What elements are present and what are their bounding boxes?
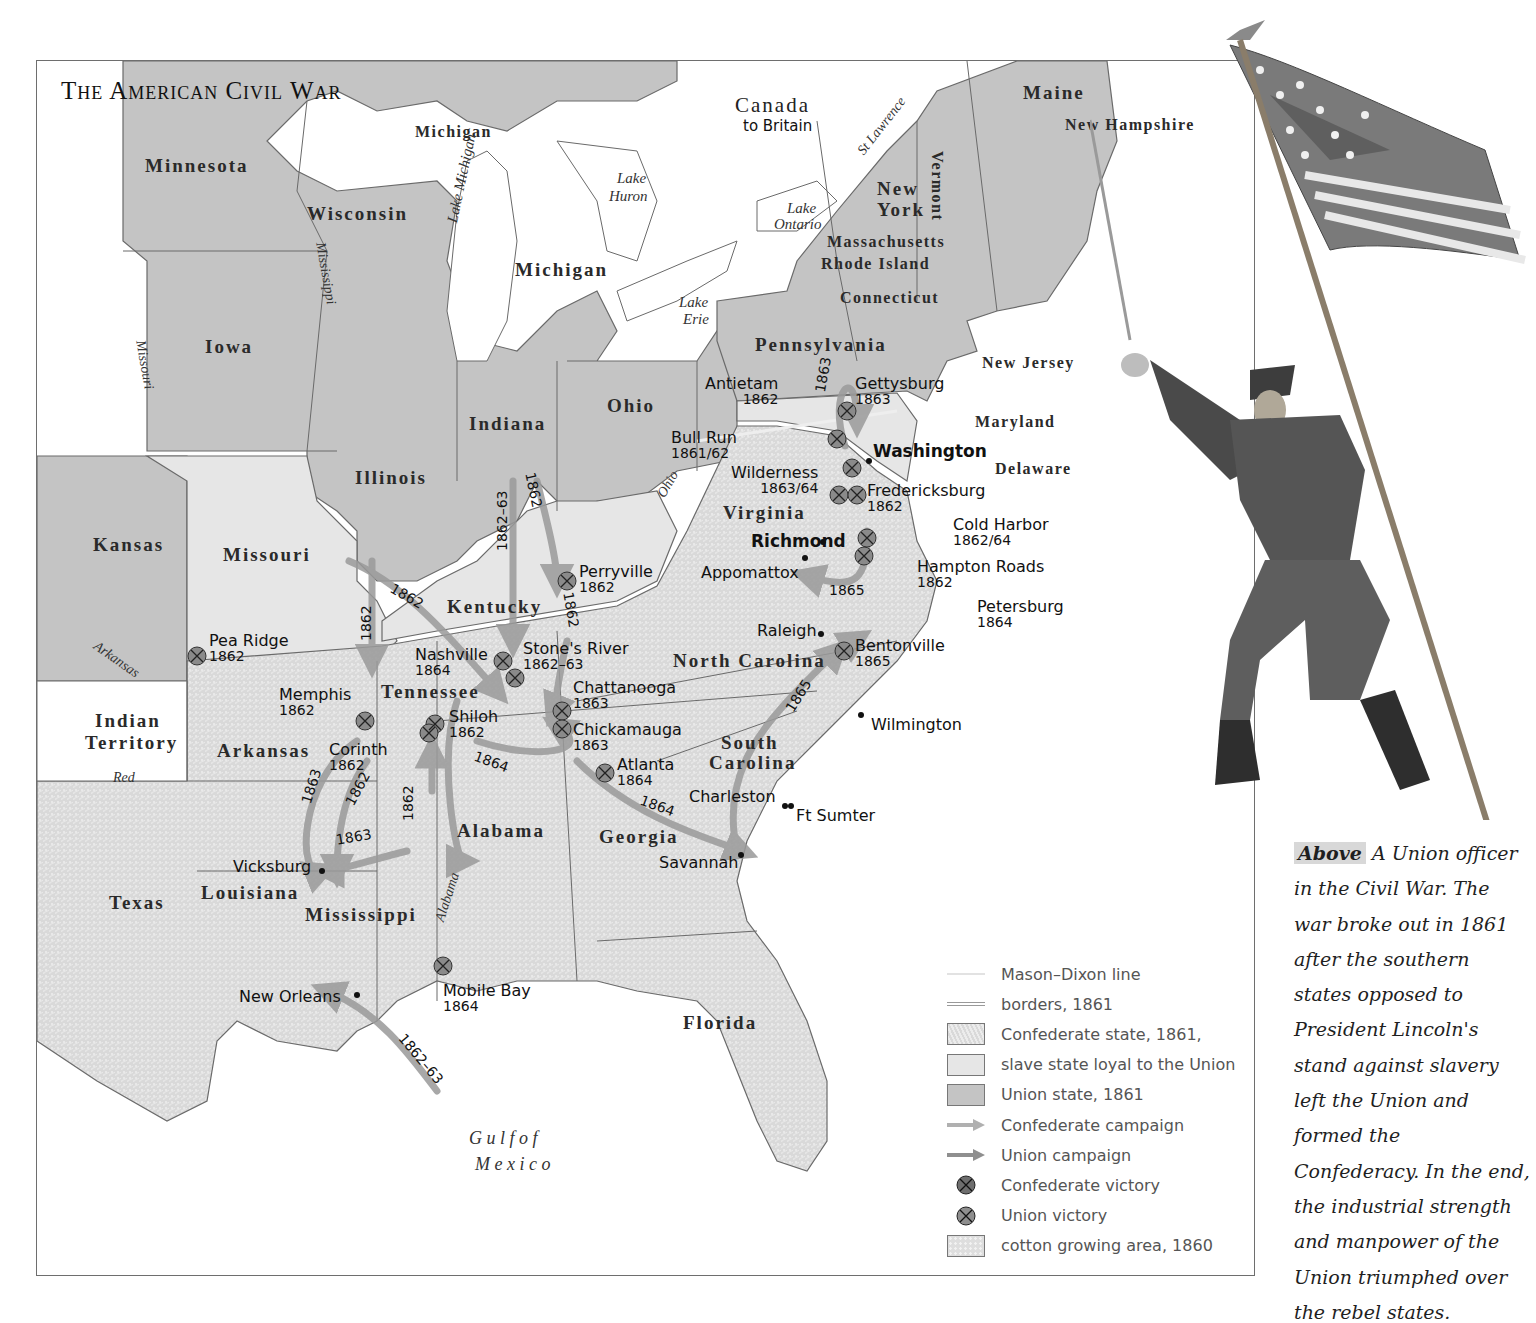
label-iowa: Iowa [205,337,253,356]
legend-item-mason-dixon: Mason–Dixon line [947,959,1237,989]
label-maine: Maine [1023,83,1085,102]
label-city-charleston: Charleston [689,789,776,805]
campaign-year-vicksburg-c: 1862 [401,785,415,821]
label-michigan-upper: Michigan [415,124,492,140]
union-state-swatch [947,1084,985,1106]
legend-item-borders: borders, 1861 [947,989,1237,1019]
label-city-new-orleans: New Orleans [239,989,341,1005]
label-missouri: Missouri [223,545,311,564]
label-lake-erie-2: Erie [683,312,709,327]
label-lake-erie-1: Lake [679,295,708,310]
label-wisconsin: Wisconsin [307,204,408,223]
label-kentucky: Kentucky [447,597,542,616]
label-lake-ontario-2: Ontario [774,217,822,232]
label-city-appomattox: Appomattox [701,565,799,581]
label-louisiana: Louisiana [201,883,299,902]
label-connecticut: Connecticut [840,290,939,306]
union-victory-marker-icon [947,1205,985,1227]
label-illinois: Illinois [355,468,427,487]
label-city-ft-sumter: Ft Sumter [796,808,875,824]
battle-perryville: Perryville1862 [579,564,653,594]
label-rhode-island: Rhode Island [821,256,930,272]
legend-item-confederate-state: Confederate state, 1861, [947,1019,1237,1049]
label-canada-sub: to Britain [743,119,812,134]
campaign-year-missouri-b: 1862 [359,605,373,641]
battle-atlanta: Atlanta1864 [617,757,674,787]
label-virginia: Virginia [723,503,806,522]
label-alabama: Alabama [457,821,545,840]
confederate-victory-marker-icon [947,1174,985,1196]
label-indian-territory-2: Territory [85,733,178,752]
label-minnesota: Minnesota [145,156,249,175]
battle-gettysburg: Gettysburg1863 [855,376,944,406]
confederate-state-swatch [947,1023,985,1045]
label-south-carolina-2: Carolina [709,753,796,772]
legend-item-confederate-victory: Confederate victory [947,1170,1237,1200]
label-new-jersey: New Jersey [982,355,1075,371]
label-georgia: Georgia [599,827,678,846]
label-indian-territory-1: Indian [95,711,161,730]
borders-line-swatch [947,993,985,1015]
label-river-red: Red [113,771,135,785]
battle-hampton-roads: Hampton Roads1862 [917,559,1044,589]
legend-item-union-state: Union state, 1861 [947,1080,1237,1110]
label-gulf-1: G u l f o f [469,1129,538,1147]
map-title: The American Civil War [61,77,342,105]
label-maryland: Maryland [975,414,1055,430]
mason-dixon-line-swatch [947,963,985,985]
slave-state-swatch [947,1054,985,1076]
battle-stones-river: Stone's River1862–63 [523,641,628,671]
map-frame: The American Civil War Canada to Britain… [36,60,1255,1276]
battle-antietam: Antietam1862 [705,376,778,406]
label-indiana: Indiana [469,414,546,433]
caption: Above A Union officer in the Civil War. … [1294,836,1530,1323]
label-tennessee: Tennessee [381,682,480,701]
battle-pea-ridge: Pea Ridge1862 [209,633,289,663]
label-massachusetts: Massachusetts [827,234,945,250]
legend-item-slave-state: slave state loyal to the Union [947,1050,1237,1080]
label-north-carolina: North Carolina [673,651,826,670]
confederate-campaign-arrow-icon [947,1114,985,1136]
label-lake-ontario-1: Lake [787,201,816,216]
label-lake-huron-2: Huron [609,189,648,204]
label-delaware: Delaware [995,461,1072,477]
battle-cold-harbor: Cold Harbor1862/64 [953,517,1049,547]
caption-lead: Above [1294,842,1366,864]
caption-text: A Union officer in the Civil War. The wa… [1294,842,1530,1323]
cotton-area-swatch [947,1235,985,1257]
battle-fredericksburg: Fredericksburg1862 [867,483,985,513]
battle-chattanooga: Chattanooga1863 [573,680,676,710]
campaign-year-appomattox: 1865 [829,583,865,597]
label-arkansas: Arkansas [217,741,310,760]
battle-shiloh: Shiloh1862 [449,709,498,739]
label-city-vicksburg: Vicksburg [233,859,311,875]
indian-territory [37,681,187,781]
label-lake-huron-1: Lake [617,171,646,186]
label-kansas: Kansas [93,535,164,554]
label-vermont: Vermont [929,151,945,221]
battle-corinth: Corinth1862 [329,742,388,772]
legend-item-union-campaign: Union campaign [947,1140,1237,1170]
label-mississippi: Mississippi [305,905,417,924]
label-canada: Canada [735,95,810,116]
label-texas: Texas [109,893,165,912]
label-city-washington: Washington [873,443,987,460]
battle-mobile-bay: Mobile Bay1864 [443,983,531,1013]
battle-petersburg: Petersburg1864 [977,599,1064,629]
label-new-york-1: New [877,179,919,198]
label-city-richmond: Richmond [751,533,846,550]
label-ohio: Ohio [607,396,655,415]
label-new-york-2: York [877,200,925,219]
label-michigan: Michigan [515,260,608,279]
union-officer-illustration [1090,0,1536,820]
label-city-raleigh: Raleigh [757,623,817,639]
battle-memphis: Memphis1862 [279,687,351,717]
label-florida: Florida [683,1013,757,1032]
legend-item-cotton-area: cotton growing area, 1860 [947,1231,1237,1261]
label-gulf-2: M e x i c o [475,1155,550,1173]
union-campaign-arrow-icon [947,1144,985,1166]
legend-item-confederate-campaign: Confederate campaign [947,1110,1237,1140]
label-city-savannah: Savannah [659,855,738,871]
label-pennsylvania: Pennsylvania [755,335,887,354]
battle-wilderness: Wilderness1863/64 [731,465,818,495]
